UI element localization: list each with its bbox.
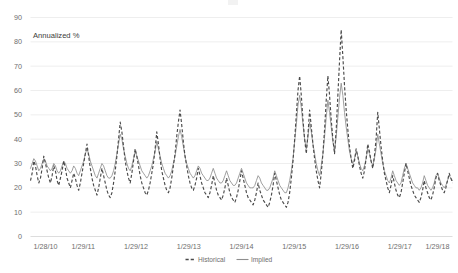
annualized-percent-label: Annualized %	[33, 31, 80, 40]
y-tick-label: 30	[14, 159, 22, 168]
x-tick-label: 1/29/11	[72, 242, 95, 251]
x-tick-label: 1/29/14	[230, 242, 254, 251]
x-tick-label: 1/29/16	[335, 242, 359, 251]
y-tick-label: 20	[14, 183, 22, 192]
y-tick-label: 60	[14, 86, 22, 95]
y-tick-label: 70	[14, 62, 22, 71]
y-tick-label: 40	[14, 135, 22, 144]
y-tick-label: 10	[14, 208, 22, 217]
chart-svg: 0102030405060708090 Annualized % 1/28/10…	[0, 0, 458, 273]
legend-label-implied: Implied	[251, 256, 273, 264]
y-tick-label: 0	[18, 232, 22, 241]
y-tick-label: 90	[14, 13, 22, 22]
chart-background	[0, 0, 458, 273]
x-tick-label: 1/29/13	[177, 242, 201, 251]
y-tick-label: 80	[14, 37, 22, 46]
y-tick-label: 50	[14, 110, 22, 119]
x-tick-label: 1/29/17	[388, 242, 412, 251]
volatility-line-chart: 0102030405060708090 Annualized % 1/28/10…	[0, 0, 458, 273]
x-tick-label: 1/29/15	[282, 242, 306, 251]
x-tick-label: 1/29/12	[124, 242, 148, 251]
x-tick-label: 1/28/10	[34, 242, 58, 251]
x-tick-label: 1/29/18	[426, 242, 450, 251]
legend-label-historical: Historical	[198, 256, 226, 263]
top-artifact	[228, 0, 238, 5]
